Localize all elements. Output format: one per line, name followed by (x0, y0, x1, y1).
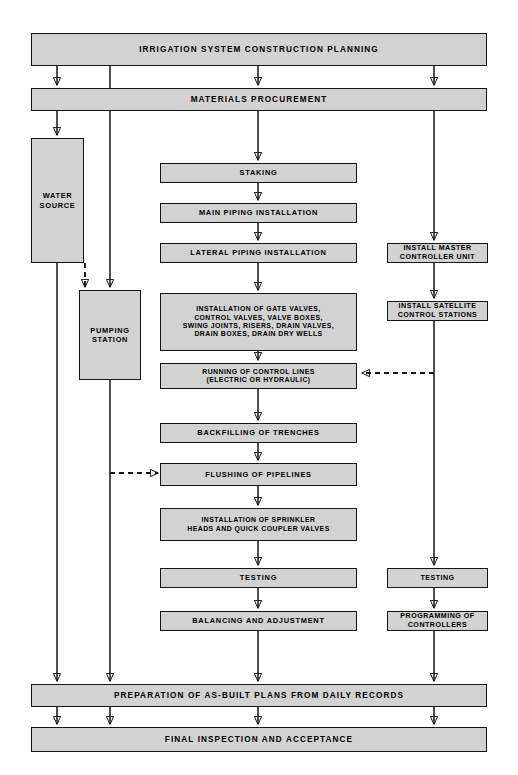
node-as-built-plans[interactable]: PREPARATION OF AS-BUILT PLANS FROM DAILY… (31, 684, 487, 707)
node-running-control-lines-label: RUNNING OF CONTROL LINES (ELECTRIC OR HY… (200, 368, 317, 385)
node-balancing-and-adjustment[interactable]: BALANCING AND ADJUSTMENT (160, 611, 357, 631)
node-as-built-plans-label: PREPARATION OF AS-BUILT PLANS FROM DAILY… (112, 691, 406, 701)
flowchart-canvas: IRRIGATION SYSTEM CONSTRUCTION PLANNING … (0, 0, 518, 775)
node-final-inspection[interactable]: FINAL INSPECTION AND ACCEPTANCE (31, 727, 487, 752)
node-testing-middle-label: TESTING (238, 573, 279, 582)
node-flushing-pipelines-label: FLUSHING OF PIPELINES (203, 470, 314, 479)
node-install-satellite-stations[interactable]: INSTALL SATELLITE CONTROL STATIONS (387, 301, 488, 321)
node-install-master-controller-label: INSTALL MASTER CONTROLLER UNIT (398, 244, 477, 261)
node-lateral-piping-installation-label: LATERAL PIPING INSTALLATION (188, 248, 328, 257)
node-lateral-piping-installation[interactable]: LATERAL PIPING INSTALLATION (160, 243, 357, 263)
node-backfilling-trenches-label: BACKFILLING OF TRENCHES (195, 428, 321, 437)
node-install-satellite-stations-label: INSTALL SATELLITE CONTROL STATIONS (396, 302, 480, 319)
node-sprinkler-head-installation[interactable]: INSTALLATION OF SPRINKLER HEADS AND QUIC… (160, 508, 357, 541)
node-planning[interactable]: IRRIGATION SYSTEM CONSTRUCTION PLANNING (31, 33, 487, 66)
node-main-piping-installation[interactable]: MAIN PIPING INSTALLATION (160, 203, 357, 223)
node-programming-controllers[interactable]: PROGRAMMING OF CONTROLLERS (387, 611, 488, 631)
node-programming-controllers-label: PROGRAMMING OF CONTROLLERS (398, 612, 476, 629)
node-final-inspection-label: FINAL INSPECTION AND ACCEPTANCE (163, 735, 355, 745)
node-staking-label: STAKING (238, 168, 280, 177)
node-staking[interactable]: STAKING (160, 163, 357, 183)
node-pumping-station[interactable]: PUMPING STATION (79, 290, 141, 380)
node-running-control-lines[interactable]: RUNNING OF CONTROL LINES (ELECTRIC OR HY… (160, 363, 357, 389)
node-water-source[interactable]: WATER SOURCE (31, 138, 84, 263)
node-balancing-and-adjustment-label: BALANCING AND ADJUSTMENT (190, 616, 326, 625)
node-valve-installation-label: INSTALLATION OF GATE VALVES, CONTROL VAL… (181, 305, 336, 339)
node-testing-right-label: TESTING (418, 574, 456, 583)
node-water-source-label: WATER SOURCE (38, 191, 78, 209)
node-materials-procurement-label: MATERIALS PROCUREMENT (189, 95, 330, 105)
node-planning-label: IRRIGATION SYSTEM CONSTRUCTION PLANNING (137, 45, 381, 55)
node-flushing-pipelines[interactable]: FLUSHING OF PIPELINES (160, 463, 357, 486)
node-sprinkler-head-installation-label: INSTALLATION OF SPRINKLER HEADS AND QUIC… (185, 516, 331, 533)
node-install-master-controller[interactable]: INSTALL MASTER CONTROLLER UNIT (387, 243, 488, 263)
node-pumping-station-label: PUMPING STATION (88, 326, 131, 344)
node-valve-installation[interactable]: INSTALLATION OF GATE VALVES, CONTROL VAL… (160, 293, 357, 351)
node-testing-middle[interactable]: TESTING (160, 568, 357, 588)
node-main-piping-installation-label: MAIN PIPING INSTALLATION (197, 208, 320, 217)
node-backfilling-trenches[interactable]: BACKFILLING OF TRENCHES (160, 423, 357, 443)
node-materials-procurement[interactable]: MATERIALS PROCUREMENT (31, 88, 487, 111)
node-testing-right[interactable]: TESTING (387, 568, 488, 588)
